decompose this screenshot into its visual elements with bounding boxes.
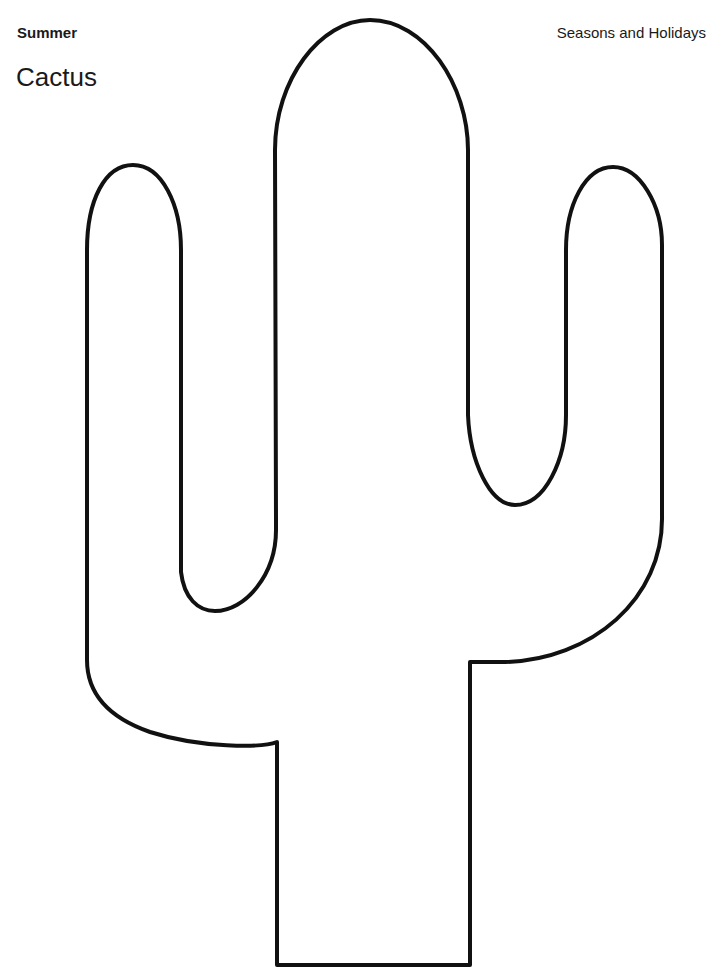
cactus-outline [0,0,726,975]
cactus-outline-path [87,20,662,965]
